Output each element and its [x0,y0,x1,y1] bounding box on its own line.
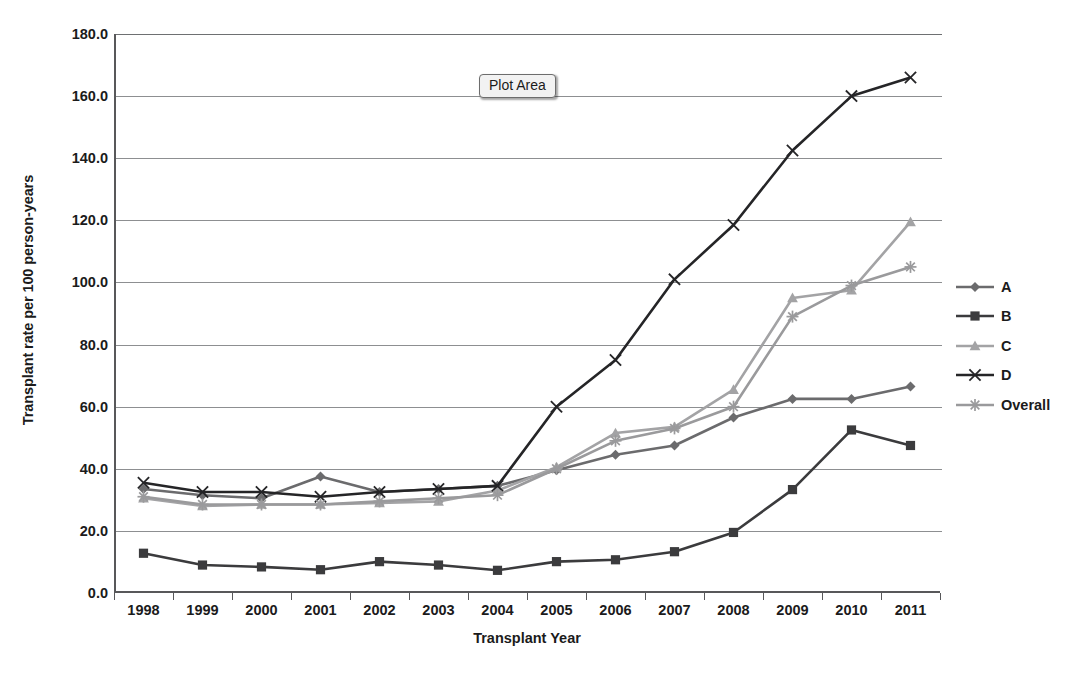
x-axis-tick [586,593,587,600]
legend-label: B [1001,308,1011,324]
legend-label: D [1001,367,1011,383]
asterisk-marker [969,399,981,411]
x-axis-tick [881,593,882,600]
legend-item-d[interactable]: D [955,361,1085,391]
plot-area[interactable] [114,34,940,593]
y-tick-label: 180.0 [46,26,108,42]
x-axis-title: Transplant Year [114,630,940,646]
legend-label: Overall [1001,397,1050,413]
triangle-marker [955,336,995,356]
x-axis-tick [763,593,764,600]
x-axis-tick [822,593,823,600]
y-tick-label: 120.0 [46,212,108,228]
chart-page: Transplant rate per 100 person-years 0.0… [0,0,1091,677]
gridline [116,345,942,346]
x-axis-tick [232,593,233,600]
legend-label: A [1001,279,1011,295]
x-tick-label: 2011 [876,602,946,618]
gridline [116,34,942,35]
y-tick-label: 140.0 [46,150,108,166]
gridline [116,158,942,159]
x-axis-tick [645,593,646,600]
legend-item-a[interactable]: A [955,272,1085,302]
square-marker [955,306,995,326]
x-axis-tick [468,593,469,600]
x-axis-tick [173,593,174,600]
gridline [116,407,942,408]
x-axis-tick [350,593,351,600]
x-axis-tick [291,593,292,600]
square-marker [970,312,979,321]
x-axis-tick [114,593,115,600]
gridline [116,220,942,221]
diamond-marker [955,277,995,297]
y-tick-label: 60.0 [46,399,108,415]
x-axis-tick [409,593,410,600]
y-tick-label: 160.0 [46,88,108,104]
y-axis-tick-labels: 0.020.040.060.080.0100.0120.0140.0160.01… [38,0,108,677]
cross-marker [955,365,995,385]
chart-legend: ABCDOverall [955,272,1085,420]
legend-item-c[interactable]: C [955,331,1085,361]
plot-area-tooltip: Plot Area [479,74,556,98]
x-axis-tick [704,593,705,600]
y-tick-label: 20.0 [46,523,108,539]
gridline [116,531,942,532]
legend-item-b[interactable]: B [955,302,1085,332]
legend-label: C [1001,338,1011,354]
legend-item-overall[interactable]: Overall [955,390,1085,420]
y-tick-label: 40.0 [46,461,108,477]
x-axis-tick [527,593,528,600]
asterisk-marker [955,395,995,415]
x-axis-tick [940,593,941,600]
diamond-marker [970,282,980,292]
gridline [116,282,942,283]
y-axis-title-text: Transplant rate per 100 person-years [20,175,36,425]
gridline [116,469,942,470]
y-tick-label: 100.0 [46,274,108,290]
y-tick-label: 0.0 [46,585,108,601]
y-tick-label: 80.0 [46,337,108,353]
